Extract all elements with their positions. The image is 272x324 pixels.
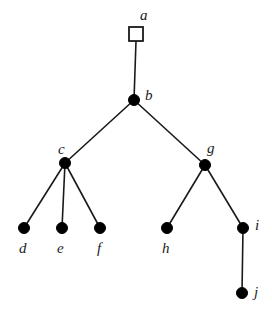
tree-edge-i-j bbox=[242, 228, 243, 293]
tree-edge-b-g bbox=[134, 100, 205, 165]
tree-node-h[interactable] bbox=[162, 223, 173, 234]
tree-node-label-g: g bbox=[207, 141, 215, 156]
tree-node-label-d: d bbox=[19, 241, 27, 256]
tree-node-e[interactable] bbox=[57, 223, 68, 234]
tree-edge-g-i bbox=[205, 165, 243, 228]
tree-node-label-i: i bbox=[255, 218, 259, 233]
tree-node-label-h: h bbox=[162, 241, 170, 256]
nodes-layer bbox=[19, 27, 249, 299]
tree-node-j[interactable] bbox=[237, 288, 248, 299]
tree-edge-c-e bbox=[62, 163, 65, 228]
tree-node-label-f: f bbox=[97, 241, 101, 256]
tree-edge-c-f bbox=[65, 163, 100, 228]
tree-node-label-j: j bbox=[254, 285, 258, 300]
tree-node-g[interactable] bbox=[200, 160, 211, 171]
tree-node-label-c: c bbox=[58, 142, 65, 157]
tree-edge-c-d bbox=[24, 163, 65, 228]
tree-node-b[interactable] bbox=[129, 95, 140, 106]
tree-node-c[interactable] bbox=[60, 158, 71, 169]
tree-node-a[interactable] bbox=[129, 27, 143, 41]
tree-edge-a-b bbox=[134, 41, 136, 100]
tree-node-d[interactable] bbox=[19, 223, 30, 234]
tree-diagram: abcgdefhij bbox=[0, 0, 272, 324]
tree-node-f[interactable] bbox=[95, 223, 106, 234]
tree-node-label-a: a bbox=[140, 8, 148, 23]
tree-edge-g-h bbox=[167, 165, 205, 228]
tree-node-label-b: b bbox=[145, 88, 153, 103]
tree-node-label-e: e bbox=[57, 241, 64, 256]
tree-edge-b-c bbox=[65, 100, 134, 163]
tree-node-i[interactable] bbox=[238, 223, 249, 234]
tree-graph-canvas bbox=[0, 0, 272, 324]
